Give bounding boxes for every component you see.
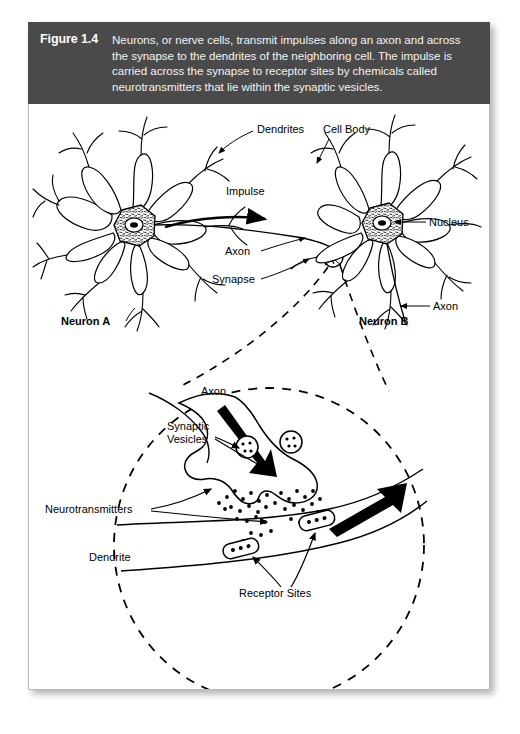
label-detail-axon: Axon (201, 385, 226, 397)
figure-card: Figure 1.4 Neurons, or nerve cells, tran… (28, 22, 490, 690)
detail-impulse-arrow-out (329, 483, 407, 537)
figure-caption-banner: Figure 1.4 Neurons, or nerve cells, tran… (28, 22, 490, 104)
label-dendrites: Dendrites (257, 123, 305, 135)
label-impulse: Impulse (226, 185, 265, 197)
label-axon-right: Axon (433, 300, 458, 312)
label-neuron-a: Neuron A (61, 315, 110, 327)
label-cell-body: Cell Body (323, 123, 371, 135)
neuron-a-group (33, 117, 247, 331)
magnification-leader-lines (179, 265, 389, 391)
label-synapse: Synapse (212, 273, 255, 285)
figure-caption-text: Neurons, or nerve cells, transmit impuls… (112, 32, 478, 94)
label-synaptic-vesicles-line2: Vesicles (167, 433, 208, 445)
label-synaptic-vesicles-line1: Synaptic (167, 420, 210, 432)
label-axon-left: Axon (225, 245, 250, 257)
label-neuron-b: Neuron B (359, 315, 409, 327)
figure-number: Figure 1.4 (40, 32, 112, 48)
label-dendrite: Dendrite (89, 551, 131, 563)
label-receptor-sites: Receptor Sites (239, 587, 312, 599)
magnification-circle (114, 388, 424, 689)
label-nucleus: Nucleus (429, 216, 469, 228)
figure-artwork: Neuron A Impulse Dendrites Cell Body Axo… (29, 105, 489, 689)
label-neurotransmitters: Neurotransmitters (45, 503, 133, 515)
